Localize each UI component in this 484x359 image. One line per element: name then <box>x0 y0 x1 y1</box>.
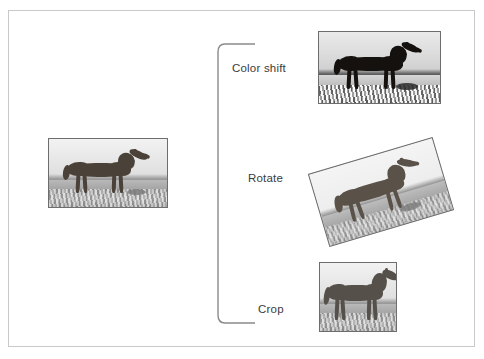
horse-leg <box>366 297 370 320</box>
label-crop: Crop <box>258 303 284 315</box>
horse-muzzle <box>410 160 419 165</box>
horse-silhouette <box>331 43 423 90</box>
crop-scene <box>320 263 396 331</box>
horse-leg <box>390 68 395 89</box>
horse-leg <box>383 68 388 89</box>
horse-silhouette <box>322 270 396 322</box>
horse-neck <box>387 164 406 182</box>
augmentation-figure: Color shift Rotate Crop <box>0 0 484 359</box>
original-image-scene <box>49 139 167 207</box>
horse-leg <box>334 297 339 320</box>
horse-leg <box>76 173 81 193</box>
horse-leg <box>353 68 359 89</box>
label-color-shift: Color shift <box>232 62 286 74</box>
augmented-image-crop <box>319 262 397 332</box>
horse-leg <box>355 199 367 221</box>
horse-leg <box>392 188 403 210</box>
original-image <box>48 138 168 208</box>
horse-leg <box>346 68 351 89</box>
horse-leg <box>372 297 377 320</box>
color-shift-scene <box>319 32 440 103</box>
horse-leg <box>119 173 124 193</box>
horse-leg <box>112 173 117 193</box>
horse-silhouette <box>61 150 151 195</box>
label-rotate: Rotate <box>248 172 283 184</box>
augmented-image-color-shift <box>318 31 441 104</box>
